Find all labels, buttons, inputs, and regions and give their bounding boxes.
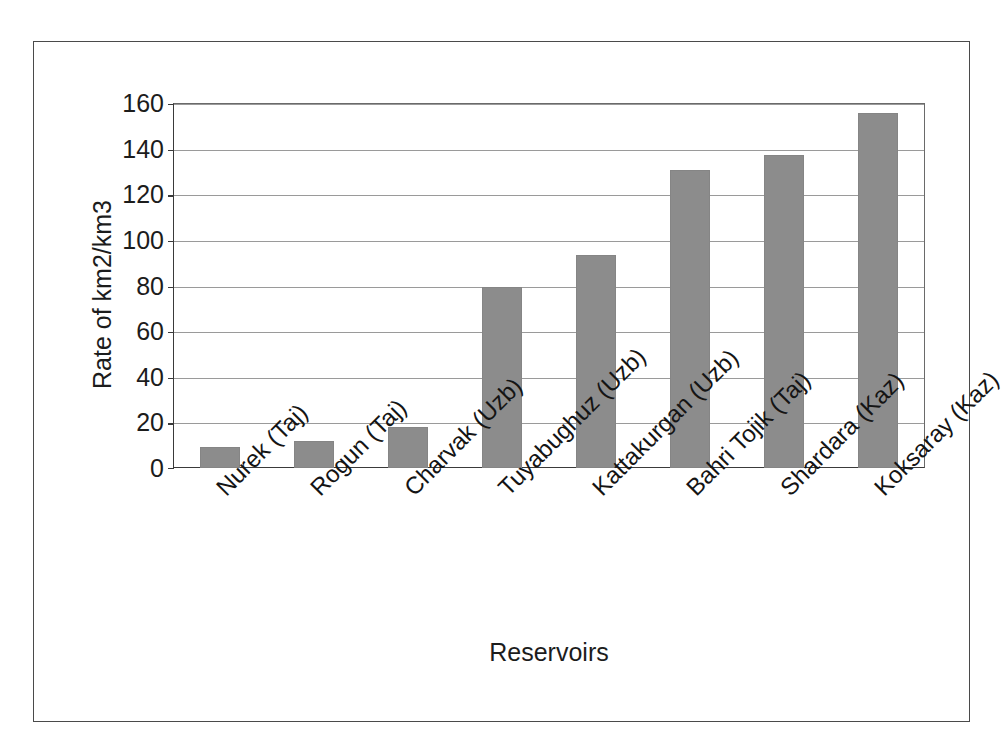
chart-figure: 160 140 120 100 80 60 40 20 0 Rate of km… <box>0 0 1004 753</box>
y-tick-label-80: 80 <box>136 274 164 299</box>
y-tick-mark-0 <box>168 468 174 469</box>
y-axis-title-wrap: Rate of km2/km3 <box>53 100 93 460</box>
y-tick-label-0: 0 <box>150 456 164 481</box>
y-tick-label-40: 40 <box>136 365 164 390</box>
y-tick-label-160: 160 <box>122 91 164 116</box>
y-axis-title: Rate of km2/km3 <box>88 150 117 440</box>
bar-kattakurgan-uzb[interactable] <box>576 255 616 468</box>
y-tick-label-20: 20 <box>136 410 164 435</box>
y-tick-label-100: 100 <box>122 228 164 253</box>
y-tick-label-140: 140 <box>122 137 164 162</box>
y-tick-label-120: 120 <box>122 182 164 207</box>
x-axis-title: Reservoirs <box>173 638 925 667</box>
y-tick-label-60: 60 <box>136 319 164 344</box>
